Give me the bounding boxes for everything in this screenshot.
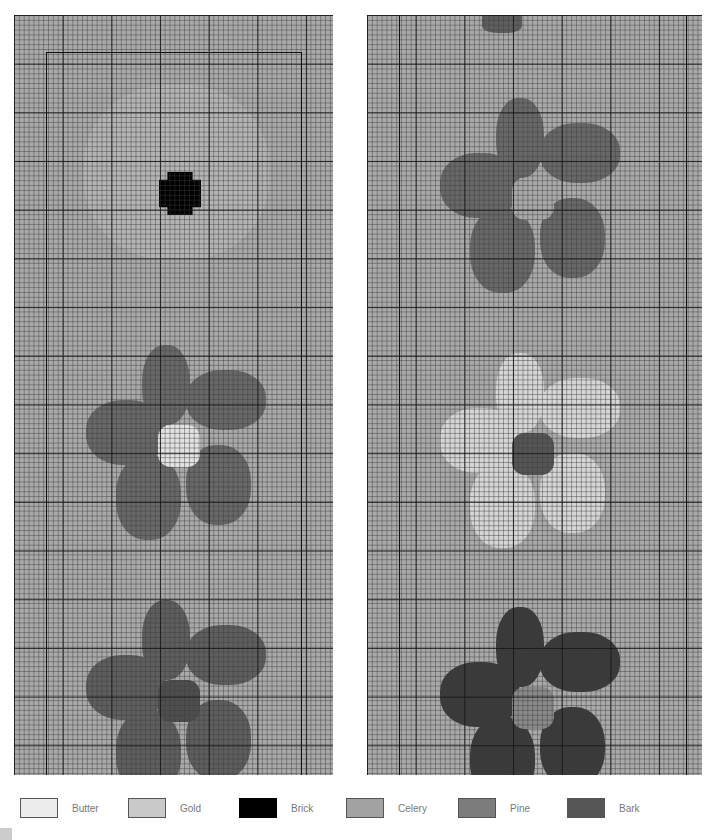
flower-2-center <box>158 425 200 467</box>
flower-b <box>440 353 620 548</box>
legend-item-brick: Brick <box>239 798 313 818</box>
left-chart-panel <box>14 15 333 775</box>
color-legend: Butter Gold Brick Celery Pine Bark <box>0 790 706 830</box>
legend-item-bark: Bark <box>567 798 640 818</box>
legend-label: Butter <box>72 803 99 814</box>
flower-b-center <box>512 433 554 475</box>
legend-item-celery: Celery <box>346 798 427 818</box>
petal-bottom-left <box>470 463 535 548</box>
swatch-bark <box>567 798 605 818</box>
flower-c <box>440 607 620 775</box>
petal-bottom-left <box>470 208 535 293</box>
flower-3 <box>86 600 266 775</box>
legend-label: Brick <box>291 803 313 814</box>
flower-c-center <box>512 687 554 729</box>
flower-partial-top <box>482 15 522 33</box>
page-corner-mark <box>0 828 12 840</box>
petal-right-top <box>186 625 266 685</box>
petal-right-top <box>186 370 266 430</box>
legend-label: Pine <box>510 803 530 814</box>
petal-right-top <box>540 632 620 692</box>
legend-item-gold: Gold <box>128 798 201 818</box>
swatch-pine <box>458 798 496 818</box>
swatch-celery <box>346 798 384 818</box>
petal-right-top <box>540 123 620 183</box>
flower-a-center <box>512 178 554 220</box>
flower-2 <box>86 345 266 540</box>
flower-a <box>440 98 620 293</box>
legend-item-butter: Butter <box>20 798 99 818</box>
legend-label: Gold <box>180 803 201 814</box>
legend-label: Bark <box>619 803 640 814</box>
swatch-brick <box>239 798 277 818</box>
swatch-butter <box>20 798 58 818</box>
petal-bottom-left <box>116 455 181 540</box>
right-chart-panel <box>367 15 702 775</box>
legend-label: Celery <box>398 803 427 814</box>
legend-item-pine: Pine <box>458 798 530 818</box>
petal-right-top <box>540 378 620 438</box>
swatch-gold <box>128 798 166 818</box>
flower-3-center <box>158 680 200 722</box>
